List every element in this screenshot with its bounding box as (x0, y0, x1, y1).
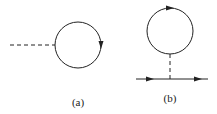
diagram-b (136, 6, 208, 82)
loop-b (147, 8, 193, 54)
feynman-diagrams (0, 0, 217, 114)
arrow-right-icon (166, 6, 174, 11)
arrow-right-icon (194, 77, 202, 82)
label-b: (b) (164, 92, 177, 104)
arrow-right-icon (146, 77, 154, 82)
diagram-a (10, 22, 104, 68)
label-a: (a) (72, 96, 84, 108)
loop-a (55, 22, 101, 68)
arrow-down-icon (99, 41, 104, 49)
